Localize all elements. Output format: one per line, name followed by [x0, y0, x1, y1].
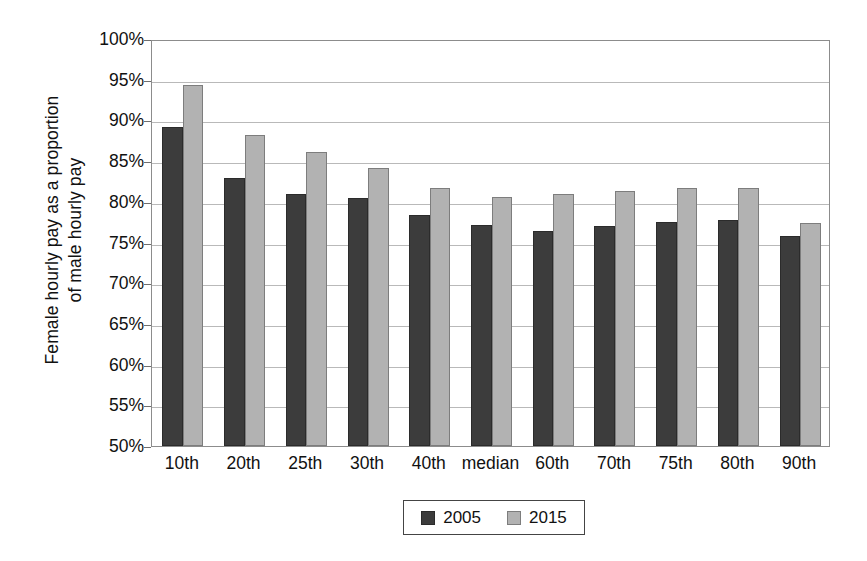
x-axis-tick-labels: 10th20th25th30th40thmedian60th70th75th80… — [151, 452, 830, 480]
legend-swatch-2015-icon — [507, 511, 521, 525]
y-axis-tick-label: 75% — [88, 235, 144, 253]
x-axis-tick-label-80th: 80th — [707, 452, 769, 474]
y-axis-tick-label: 80% — [88, 194, 144, 212]
y-axis-tick — [144, 121, 151, 122]
y-axis-tick — [144, 244, 151, 245]
y-axis-title-line-2: of male hourly pay — [64, 158, 87, 303]
legend-item-2015: 2015 — [507, 509, 567, 526]
y-axis-tick-label: 50% — [88, 438, 144, 456]
y-axis-tick — [144, 325, 151, 326]
y-axis-tick-label: 65% — [88, 316, 144, 334]
y-axis-tick-label: 90% — [88, 112, 144, 130]
y-axis-tick-labels: 100%95%90%85%80%75%70%65%60%55%50% — [88, 40, 144, 447]
legend-item-2005: 2005 — [421, 509, 481, 526]
x-axis-tick-label-10th: 10th — [151, 452, 213, 474]
y-axis-tick — [144, 406, 151, 407]
bar-2015-30th — [368, 168, 389, 446]
legend-label-2015: 2015 — [529, 509, 567, 526]
bar-2015-60th — [553, 194, 574, 446]
bar-2005-80th — [718, 220, 739, 446]
x-axis-tick-label-90th: 90th — [768, 452, 830, 474]
x-axis-tick-label-30th: 30th — [336, 452, 398, 474]
bar-2005-40th — [409, 215, 430, 446]
bar-2015-25th — [306, 152, 327, 446]
y-axis-tick-label: 95% — [88, 72, 144, 90]
bar-2015-10th — [183, 85, 204, 446]
y-axis-tick — [144, 162, 151, 163]
y-axis-title-line-1: Female hourly pay as a proportion — [41, 96, 64, 365]
y-axis-tick — [144, 203, 151, 204]
bar-2015-20th — [245, 135, 266, 446]
x-axis-tick-label-25th: 25th — [274, 452, 336, 474]
plot-area — [151, 40, 830, 447]
legend-label-2005: 2005 — [443, 509, 481, 526]
bar-2005-60th — [533, 231, 554, 446]
bar-2005-30th — [348, 198, 369, 446]
bar-2005-90th — [780, 236, 801, 446]
x-axis-tick-label-70th: 70th — [583, 452, 645, 474]
y-axis-tick — [144, 40, 151, 41]
x-axis-tick-label-60th: 60th — [521, 452, 583, 474]
bar-2015-75th — [677, 188, 698, 446]
x-axis-tick-label-75th: 75th — [645, 452, 707, 474]
y-axis-tick — [144, 366, 151, 367]
bar-2005-10th — [162, 127, 183, 446]
y-axis-tick — [144, 284, 151, 285]
x-axis-tick-label-median: median — [460, 452, 522, 474]
y-axis-tick-label: 70% — [88, 275, 144, 293]
bar-2005-20th — [224, 178, 245, 446]
bars-layer — [152, 41, 829, 446]
y-axis-tick-label: 100% — [88, 31, 144, 49]
bar-chart: Female hourly pay as a proportion of mal… — [0, 0, 867, 561]
y-axis-tick-label: 85% — [88, 153, 144, 171]
y-axis-tick — [144, 447, 151, 448]
bar-2005-25th — [286, 194, 307, 446]
bar-2015-90th — [800, 223, 821, 446]
bar-2005-median — [471, 225, 492, 446]
bar-2005-75th — [656, 222, 677, 446]
legend: 2005 2015 — [403, 500, 585, 535]
bar-2015-median — [492, 197, 513, 446]
bar-2015-40th — [430, 188, 451, 446]
y-axis-tick — [144, 81, 151, 82]
bar-2015-80th — [738, 188, 759, 446]
bar-2005-70th — [594, 226, 615, 446]
bar-2015-70th — [615, 191, 636, 446]
legend-swatch-2005-icon — [421, 511, 435, 525]
x-axis-tick-label-20th: 20th — [213, 452, 275, 474]
y-axis-tick-label: 60% — [88, 357, 144, 375]
x-axis-tick-label-40th: 40th — [398, 452, 460, 474]
y-axis-title: Female hourly pay as a proportion of mal… — [34, 20, 94, 440]
y-axis-tick-label: 55% — [88, 397, 144, 415]
